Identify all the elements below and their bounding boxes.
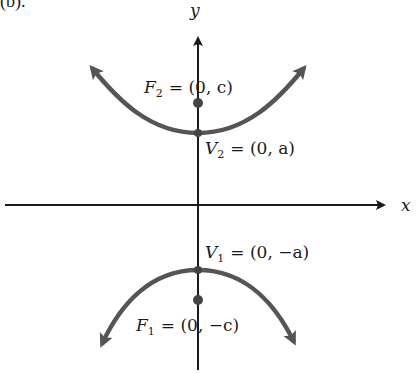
focus-f1-point — [193, 295, 203, 305]
hyperbola-diagram: y x F2= (0, c) V2= (0, a) V1= (0, −a) F1… — [0, 0, 420, 374]
label-v1: V1= (0, −a) — [205, 242, 309, 265]
vertex-v1-point — [194, 266, 202, 274]
label-v2: V2= (0, a) — [205, 138, 295, 161]
label-f1: F1= (0, −c) — [135, 315, 239, 338]
y-axis-label: y — [189, 0, 200, 20]
focus-f2-point — [193, 98, 203, 108]
vertex-v2-point — [194, 129, 202, 137]
label-f2: F2= (0, c) — [143, 77, 233, 100]
x-axis-label: x — [401, 195, 411, 215]
